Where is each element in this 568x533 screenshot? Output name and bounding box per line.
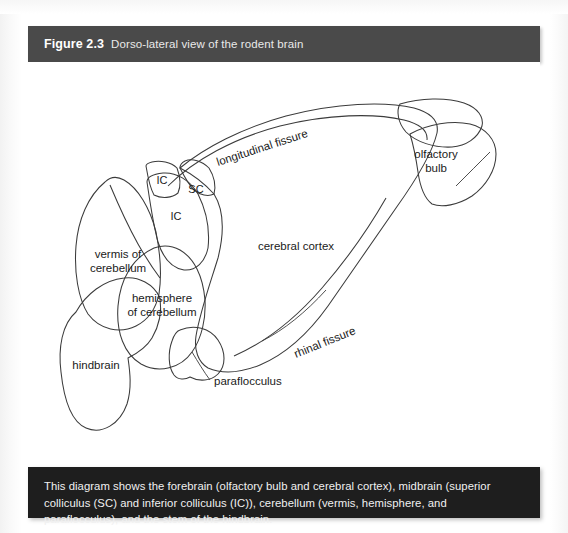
- figure-title: Dorso-lateral view of the rodent brain: [111, 38, 303, 50]
- label-vermis-line2: cerebellum: [90, 262, 146, 274]
- figure-number: Figure 2.3: [44, 37, 104, 51]
- label-inferior-colliculus-lower: IC: [171, 210, 182, 222]
- page-edge-top: [0, 0, 568, 14]
- label-inferior-colliculus-upper: IC: [157, 174, 168, 186]
- olfactory-bulb-inner-line: [456, 152, 490, 186]
- label-longitudinal-fissure: longitudinal fissure: [215, 127, 309, 168]
- figure-header-bar: Figure 2.3 Dorso-lateral view of the rod…: [28, 26, 540, 62]
- label-rhinal-fissure: rhinal fissure: [292, 324, 357, 360]
- label-cerebral-cortex: cerebral cortex: [258, 240, 334, 252]
- label-hemisphere-line2: of cerebellum: [127, 306, 196, 318]
- label-paraflocculus: paraflocculus: [214, 375, 282, 387]
- figure-screenshot: Figure 2.3 Dorso-lateral view of the rod…: [0, 0, 568, 533]
- figure-diagram-area: longitudinal fissure olfactory bulb cere…: [28, 62, 540, 467]
- label-hemisphere-line1: hemisphere: [132, 292, 192, 304]
- rodent-brain-diagram: longitudinal fissure olfactory bulb cere…: [28, 62, 540, 467]
- rhinal-fissure-line: [234, 198, 386, 356]
- figure-caption-bar: This diagram shows the forebrain (olfact…: [28, 467, 540, 518]
- label-superior-colliculus: SC: [188, 183, 203, 195]
- olfactory-bulb-region: [398, 99, 482, 147]
- longitudinal-fissure-line: [168, 116, 427, 186]
- label-olfactory-bulb-line2: bulb: [425, 162, 447, 174]
- paraflocculus-leader: [192, 352, 210, 380]
- figure-block: Figure 2.3 Dorso-lateral view of the rod…: [28, 26, 540, 518]
- figure-header-text: Figure 2.3 Dorso-lateral view of the rod…: [44, 26, 303, 62]
- label-hindbrain: hindbrain: [72, 359, 119, 371]
- cerebral-cortex-region: [180, 104, 437, 372]
- page-edge-left: [0, 0, 22, 533]
- label-olfactory-bulb-line1: olfactory: [414, 148, 458, 160]
- figure-caption-text: This diagram shows the forebrain (olfact…: [44, 478, 522, 528]
- rhinal-fissure-leader: [262, 290, 326, 341]
- page-edge-right: [550, 0, 568, 533]
- label-vermis-line1: vermis of: [95, 248, 142, 260]
- olfactory-bulb-lower-region: [410, 122, 496, 205]
